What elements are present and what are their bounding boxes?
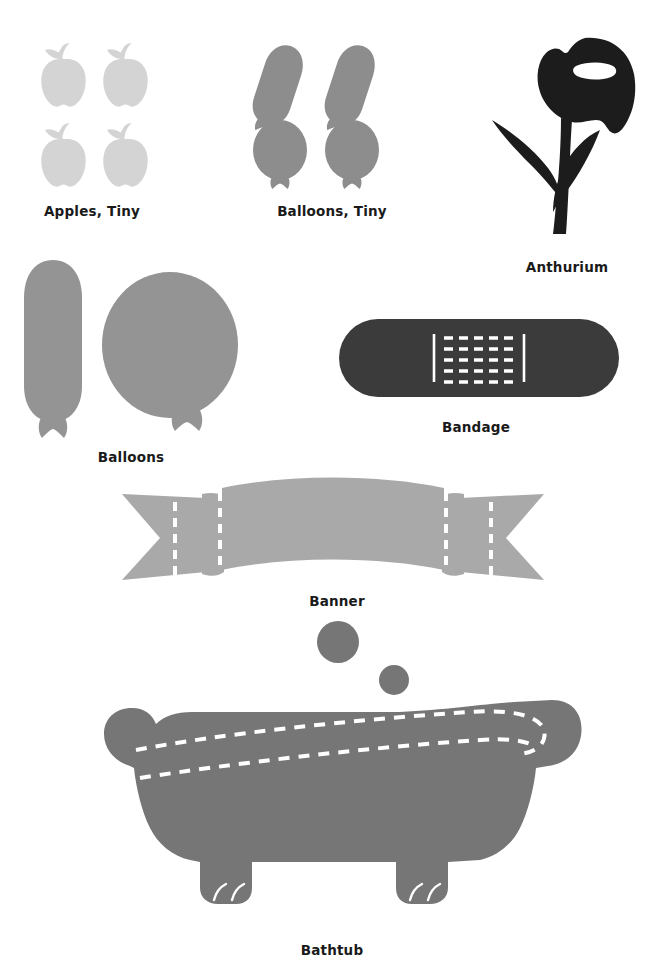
- bandage-svg: [338, 318, 620, 398]
- caption-balloons-tiny: Balloons, Tiny: [277, 203, 387, 219]
- bathtub-icon: [104, 700, 582, 904]
- flower-icon: [492, 38, 635, 234]
- balloon-icon: [24, 260, 82, 438]
- shape-group-apples-tiny[interactable]: [34, 36, 164, 191]
- balloon-icon: [102, 272, 238, 431]
- shape-group-balloons[interactable]: [18, 258, 243, 448]
- apple-icon: [41, 43, 85, 106]
- bathtub-svg: [100, 612, 590, 932]
- shape-group-balloons-tiny[interactable]: [248, 40, 398, 190]
- apple-icon: [103, 43, 147, 106]
- bubble-small-icon: [379, 665, 409, 695]
- balloon-icon: [253, 120, 307, 189]
- bandage-icon: [339, 319, 619, 397]
- banner-svg: [118, 472, 548, 584]
- shape-group-bandage[interactable]: [338, 318, 620, 398]
- shape-group-anthurium[interactable]: [488, 34, 648, 244]
- bubble-large-icon: [317, 621, 359, 663]
- apples-tiny-svg: [34, 36, 164, 191]
- shape-group-banner[interactable]: [118, 472, 548, 584]
- balloons-tiny-svg: [248, 40, 398, 190]
- caption-bandage: Bandage: [442, 419, 510, 435]
- caption-anthurium: Anthurium: [526, 259, 609, 275]
- banner-icon: [122, 478, 544, 581]
- caption-bathtub: Bathtub: [301, 942, 364, 958]
- anthurium-svg: [488, 34, 648, 244]
- apple-icon: [41, 123, 85, 186]
- caption-apples-tiny: Apples, Tiny: [44, 203, 140, 219]
- balloons-svg: [18, 258, 243, 448]
- shape-group-bathtub[interactable]: [100, 612, 590, 932]
- catalog-page: Apples, Tiny: [0, 0, 657, 969]
- caption-balloons: Balloons: [98, 449, 164, 465]
- apple-icon: [103, 123, 147, 186]
- caption-banner: Banner: [309, 593, 365, 609]
- balloon-icon: [325, 120, 379, 189]
